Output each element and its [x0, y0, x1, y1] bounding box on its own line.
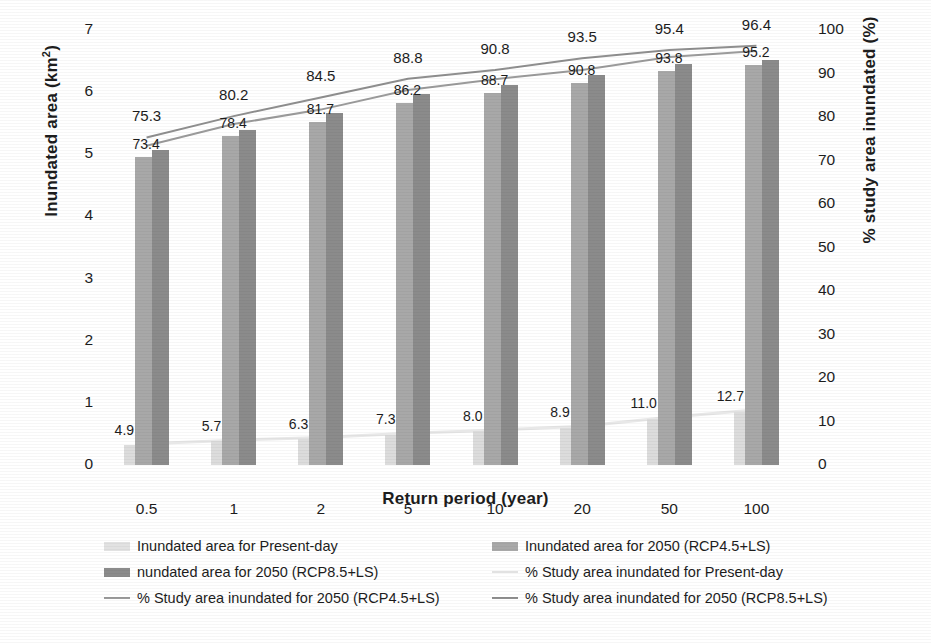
data-label-pct-rcp45: 86.2	[377, 82, 437, 98]
bar-rcp45	[484, 93, 501, 465]
legend-column-right: Inundated area for 2050 (RCP4.5+LS)% Stu…	[492, 533, 828, 611]
data-label-pct-present-day: 5.7	[181, 418, 221, 434]
bar-rcp45	[658, 71, 675, 465]
bar-rcp85	[501, 85, 518, 465]
data-label-pct-rcp45: 81.7	[290, 101, 350, 117]
bar-present-day	[298, 439, 309, 465]
legend-item[interactable]: % Study area inundated for 2050 (RCP8.5+…	[492, 585, 828, 611]
y-axis-left-tick: 5	[53, 144, 93, 162]
x-axis-tick: 5	[378, 500, 438, 518]
data-label-pct-rcp45: 78.4	[203, 115, 263, 131]
bar-present-day	[385, 435, 396, 465]
y-axis-right-tick: 70	[818, 151, 862, 169]
data-label-pct-present-day: 7.3	[355, 411, 395, 427]
legend-item[interactable]: nundated area for 2050 (RCP8.5+LS)	[104, 559, 440, 585]
legend-bar-swatch-icon	[104, 568, 130, 577]
data-label-pct-present-day: 6.3	[268, 416, 308, 432]
bar-rcp85	[152, 150, 169, 465]
bar-present-day	[560, 428, 571, 465]
y-axis-right-tick: 80	[818, 107, 862, 125]
legend-bar-swatch-icon	[104, 542, 130, 551]
x-axis-tick: 50	[639, 500, 699, 518]
data-label-pct-rcp85: 88.8	[368, 49, 448, 66]
y-axis-left-tick: 2	[53, 331, 93, 349]
data-label-pct-rcp45: 73.4	[116, 136, 176, 152]
legend-column-left: Inundated area for Present-daynundated a…	[104, 533, 440, 611]
legend-label: % Study area inundated for 2050 (RCP8.5+…	[525, 590, 828, 606]
data-label-pct-rcp85: 96.4	[716, 16, 796, 33]
data-label-pct-rcp85: 80.2	[194, 86, 274, 103]
bar-rcp45	[396, 103, 413, 465]
data-label-pct-present-day: 12.7	[704, 388, 744, 404]
bar-present-day	[211, 441, 222, 465]
y-axis-left-tick: 3	[53, 269, 93, 287]
bar-present-day	[647, 419, 658, 465]
x-axis-tick: 10	[465, 500, 525, 518]
data-label-pct-present-day: 8.0	[443, 408, 483, 424]
x-axis-tick: 1	[204, 500, 264, 518]
data-label-pct-rcp45: 93.8	[639, 50, 699, 66]
x-axis-tick: 20	[552, 500, 612, 518]
y-axis-right-title: % study area inundated (%)	[860, 5, 880, 255]
data-label-pct-rcp85: 84.5	[281, 67, 361, 84]
bar-rcp85	[413, 94, 430, 465]
legend-label: nundated area for 2050 (RCP8.5+LS)	[137, 564, 378, 580]
plot-area: 7654321010090807060504030201000.51251020…	[103, 30, 800, 465]
y-axis-left-tick: 0	[53, 455, 93, 473]
bar-rcp45	[745, 65, 762, 465]
legend-line-swatch-icon	[104, 597, 130, 599]
legend-item[interactable]: % Study area inundated for 2050 (RCP4.5+…	[104, 585, 440, 611]
data-label-pct-rcp85: 90.8	[455, 40, 535, 57]
bar-present-day	[124, 445, 135, 466]
bar-rcp85	[675, 64, 692, 465]
data-label-pct-rcp45: 88.7	[465, 72, 525, 88]
bar-present-day	[734, 412, 745, 465]
data-label-pct-present-day: 4.9	[94, 422, 134, 438]
legend-label: % Study area inundated for Present-day	[525, 564, 783, 580]
legend-line-swatch-icon	[492, 571, 518, 573]
legend-label: % Study area inundated for 2050 (RCP4.5+…	[137, 590, 440, 606]
bar-rcp85	[326, 113, 343, 465]
legend-item[interactable]: % Study area inundated for Present-day	[492, 559, 828, 585]
x-axis-tick: 2	[291, 500, 351, 518]
x-axis-tick: 100	[726, 500, 786, 518]
y-axis-right-tick: 100	[818, 20, 862, 38]
data-label-pct-rcp45: 90.8	[552, 62, 612, 78]
bar-rcp85	[239, 130, 256, 465]
legend-item[interactable]: Inundated area for 2050 (RCP4.5+LS)	[492, 533, 828, 559]
y-axis-left-tick: 1	[53, 393, 93, 411]
y-axis-right-tick: 60	[818, 194, 862, 212]
legend-item[interactable]: Inundated area for Present-day	[104, 533, 440, 559]
y-axis-right-tick: 90	[818, 64, 862, 82]
bar-present-day	[473, 431, 484, 465]
y-axis-right-tick: 0	[818, 455, 862, 473]
y-axis-left-tick: 4	[53, 206, 93, 224]
bar-rcp45	[309, 122, 326, 465]
data-label-pct-rcp45: 95.2	[726, 44, 786, 60]
bar-rcp85	[762, 60, 779, 465]
y-axis-right-tick: 10	[818, 412, 862, 430]
legend-label: Inundated area for Present-day	[137, 538, 338, 554]
bar-rcp85	[588, 75, 605, 465]
bar-rcp45	[222, 136, 239, 465]
data-label-pct-present-day: 11.0	[617, 395, 657, 411]
y-axis-right-tick: 30	[818, 325, 862, 343]
data-label-pct-rcp85: 95.4	[629, 20, 709, 37]
y-axis-right-tick: 50	[818, 238, 862, 256]
chart-figure: Inundated area (km2) % study area inunda…	[0, 0, 931, 643]
bar-rcp45	[571, 83, 588, 465]
legend-bar-swatch-icon	[492, 542, 518, 551]
bar-rcp45	[135, 157, 152, 465]
y-axis-right-tick: 40	[818, 281, 862, 299]
legend-line-swatch-icon	[492, 597, 518, 599]
y-axis-right-tick: 20	[818, 368, 862, 386]
y-axis-left-tick: 6	[53, 82, 93, 100]
legend-label: Inundated area for 2050 (RCP4.5+LS)	[525, 538, 770, 554]
y-axis-left-tick: 7	[53, 20, 93, 38]
data-label-pct-rcp85: 93.5	[542, 28, 622, 45]
data-label-pct-present-day: 8.9	[530, 404, 570, 420]
data-label-pct-rcp85: 75.3	[107, 107, 187, 124]
x-axis-tick: 0.5	[117, 500, 177, 518]
